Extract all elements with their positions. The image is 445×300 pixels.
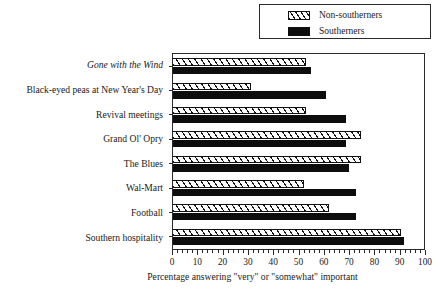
x-axis-minor-tick [293, 250, 294, 253]
x-axis-minor-tick [379, 250, 380, 253]
x-axis-minor-tick [410, 250, 411, 253]
category-axis-labels: Gone with the Wind Black-eyed peas at Ne… [0, 53, 168, 250]
x-axis-minor-tick [233, 250, 234, 253]
x-axis-minor-tick [369, 250, 370, 253]
category-label: Grand Ol' Opry [0, 130, 168, 148]
y-axis-tick [169, 139, 173, 140]
x-axis-minor-tick [334, 250, 335, 253]
bar-group [173, 203, 424, 221]
x-axis-tick-label: 40 [269, 256, 278, 268]
hatched-swatch-icon [288, 11, 310, 20]
x-axis-major-tick [374, 250, 375, 255]
x-axis-major-tick [273, 250, 274, 255]
bar-group [173, 82, 424, 100]
x-axis-major-tick [197, 250, 198, 255]
x-axis-major-tick [400, 250, 401, 255]
x-axis-minor-tick [395, 250, 396, 253]
x-axis-minor-tick [187, 250, 188, 253]
x-axis-minor-tick [359, 250, 360, 253]
bar-non-southerners [173, 180, 304, 188]
x-axis-minor-tick [283, 250, 284, 253]
bar-non-southerners [173, 107, 306, 115]
bar-southerners [173, 140, 346, 148]
y-axis-tick [169, 236, 173, 237]
x-axis-major-tick [223, 250, 224, 255]
bar-group [173, 155, 424, 173]
x-axis-tick-label: 70 [344, 256, 353, 268]
plot-area [172, 53, 425, 250]
legend-item-southerners: Southerners [288, 24, 430, 38]
x-axis-minor-tick [202, 250, 203, 253]
bar-southerners [173, 67, 311, 75]
x-axis-tick-label: 10 [193, 256, 202, 268]
x-axis-minor-tick [354, 250, 355, 253]
x-axis-minor-tick [415, 250, 416, 253]
chart-figure: Non-southerners Southerners Gone with th… [0, 0, 445, 300]
x-axis-minor-tick [253, 250, 254, 253]
x-axis-minor-tick [364, 250, 365, 253]
x-axis-tick-label: 90 [395, 256, 404, 268]
x-axis-tick-label: 100 [418, 256, 432, 268]
x-axis-minor-tick [228, 250, 229, 253]
x-axis-minor-tick [278, 250, 279, 253]
y-axis-tick [169, 66, 173, 67]
x-axis-major-tick [248, 250, 249, 255]
bar-non-southerners [173, 83, 251, 91]
category-label: The Blues [0, 155, 168, 173]
legend-item-non-southerners: Non-southerners [288, 8, 430, 22]
x-axis-tick-labels: 0102030405060708090100 [172, 256, 425, 269]
legend-label-southerners: Southerners [319, 26, 364, 36]
x-axis-minor-tick [263, 250, 264, 253]
bar-non-southerners [173, 131, 361, 139]
y-axis-tick [169, 212, 173, 213]
category-label: Revival meetings [0, 106, 168, 124]
x-axis-major-tick [172, 250, 173, 255]
bar-southerners [173, 237, 404, 245]
x-axis-minor-tick [212, 250, 213, 253]
x-axis-minor-tick [268, 250, 269, 253]
bar-southerners [173, 164, 349, 172]
x-axis-minor-tick [329, 250, 330, 253]
x-axis-minor-tick [309, 250, 310, 253]
category-label: Southern hospitality [0, 229, 168, 247]
category-label: Wal-Mart [0, 179, 168, 197]
x-axis-tick-label: 50 [294, 256, 303, 268]
bar-non-southerners [173, 204, 329, 212]
bar-group [173, 130, 424, 148]
x-axis-minor-tick [314, 250, 315, 253]
y-axis-tick [169, 188, 173, 189]
x-axis-minor-tick [319, 250, 320, 253]
x-axis-minor-tick [339, 250, 340, 253]
bar-group [173, 106, 424, 124]
x-axis-minor-tick [177, 250, 178, 253]
bar-rows [173, 54, 424, 249]
x-axis-minor-tick [207, 250, 208, 253]
bar-southerners [173, 115, 346, 123]
bar-non-southerners [173, 58, 306, 66]
solid-swatch-icon [288, 27, 310, 36]
chart-legend: Non-southerners Southerners [259, 4, 431, 39]
x-axis-title-wrap: Percentage answering "very" or "somewhat… [0, 271, 445, 282]
bar-non-southerners [173, 156, 361, 164]
x-axis-minor-tick [243, 250, 244, 253]
x-axis-minor-tick [258, 250, 259, 253]
bar-group [173, 179, 424, 197]
x-axis-minor-tick [192, 250, 193, 253]
x-axis-minor-tick [288, 250, 289, 253]
x-axis-minor-tick [218, 250, 219, 253]
x-axis-tick-label: 60 [319, 256, 328, 268]
x-axis-tick-label: 80 [370, 256, 379, 268]
x-axis-tick-label: 0 [170, 256, 175, 268]
category-label: Football [0, 204, 168, 222]
x-axis-major-tick [324, 250, 325, 255]
x-axis-minor-tick [420, 250, 421, 253]
category-label: Black-eyed peas at New Year's Day [0, 81, 168, 99]
x-axis-minor-tick [344, 250, 345, 253]
bar-southerners [173, 213, 356, 221]
legend-label-non-southerners: Non-southerners [319, 10, 382, 20]
x-axis-minor-tick [304, 250, 305, 253]
x-axis-title: Percentage answering "very" or "somewhat… [147, 271, 357, 282]
x-axis-major-tick [299, 250, 300, 255]
y-axis-tick [169, 114, 173, 115]
bar-group [173, 57, 424, 75]
